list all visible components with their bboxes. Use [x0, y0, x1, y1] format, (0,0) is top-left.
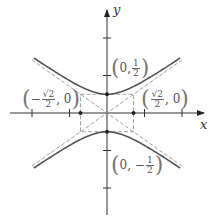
- top-vertex-label: (0, 12): [111, 57, 149, 79]
- hyperbola-plot: [0, 0, 215, 223]
- left-covertex-label: (− √22, 0): [22, 88, 80, 110]
- bottom-vertex-label: (0, − 12): [111, 154, 163, 176]
- right-covertex-label: ( √22, 0): [141, 88, 189, 110]
- y-axis-label: y: [113, 2, 120, 17]
- x-axis-label: x: [200, 117, 207, 132]
